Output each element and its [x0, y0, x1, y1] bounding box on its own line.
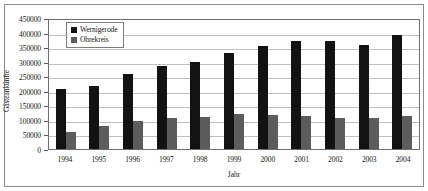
- bar-chart: Gästeankünfte 45000040000035000030000025…: [0, 0, 428, 191]
- bar: [258, 46, 268, 149]
- bar: [291, 41, 301, 149]
- y-axis-tick-label: 50000: [23, 131, 41, 140]
- y-axis-tick-label: 200000: [19, 87, 41, 96]
- x-axis-tick-label: 1996: [116, 155, 150, 164]
- bar-group: [352, 20, 386, 149]
- x-axis-tick-label: 1998: [183, 155, 217, 164]
- bar: [190, 62, 200, 149]
- bar: [89, 86, 99, 149]
- bar: [301, 116, 311, 149]
- y-axis-tick-label: 150000: [19, 102, 41, 111]
- bar-group: [318, 20, 352, 149]
- bar: [66, 132, 76, 149]
- bar-group: [217, 20, 251, 149]
- x-axis-tick-label: 1997: [149, 155, 183, 164]
- bar-group: [184, 20, 218, 149]
- x-axis-tick-label: 2002: [319, 155, 353, 164]
- bar: [167, 118, 177, 149]
- bar: [99, 126, 109, 149]
- bar: [133, 121, 143, 149]
- bar: [123, 74, 133, 149]
- x-axis-tick-label: 1994: [48, 155, 82, 164]
- x-axis-title: Jahr: [48, 170, 420, 179]
- bar: [268, 115, 278, 149]
- bar: [402, 116, 412, 149]
- bar-group: [150, 20, 184, 149]
- y-axis-tick-label: 300000: [19, 58, 41, 67]
- bar-group: [385, 20, 419, 149]
- y-axis-tick-label: 400000: [19, 29, 41, 38]
- legend-swatch-icon: [71, 27, 77, 33]
- bar: [224, 53, 234, 149]
- bar: [234, 114, 244, 150]
- bar: [359, 45, 369, 149]
- x-axis-tick-label: 1995: [82, 155, 116, 164]
- x-axis-ticks: 1994199519961997199819992000200120022003…: [48, 155, 420, 164]
- bar: [335, 118, 345, 149]
- x-axis-tick-label: 2001: [285, 155, 319, 164]
- legend-label: Ohrekreis: [80, 35, 109, 45]
- y-axis-tick-label: 0: [37, 146, 41, 155]
- bar-group: [251, 20, 285, 149]
- bar: [56, 89, 66, 149]
- bar: [325, 41, 335, 149]
- legend-item: Wernigerode: [71, 25, 117, 35]
- x-axis-tick-label: 1999: [217, 155, 251, 164]
- bar: [392, 35, 402, 149]
- y-axis-tick-mark: [44, 150, 48, 151]
- legend-item: Ohrekreis: [71, 35, 117, 45]
- y-axis-tick-label: 450000: [19, 15, 41, 24]
- x-axis-tick-label: 2004: [386, 155, 420, 164]
- bar-group: [284, 20, 318, 149]
- y-axis-tick-label: 350000: [19, 44, 41, 53]
- bar: [200, 117, 210, 149]
- chart-area: Gästeankünfte 45000040000035000030000025…: [0, 0, 428, 191]
- bar: [157, 66, 167, 149]
- legend-label: Wernigerode: [80, 25, 117, 35]
- y-axis-tick-label: 250000: [19, 73, 41, 82]
- x-axis-tick-label: 2000: [251, 155, 285, 164]
- bar: [369, 118, 379, 149]
- legend: WernigerodeOhrekreis: [66, 22, 124, 48]
- y-axis-tick-label: 100000: [19, 116, 41, 125]
- y-axis: 4500004000003500003000002500002000001500…: [0, 0, 48, 150]
- x-axis-tick-label: 2003: [352, 155, 386, 164]
- legend-swatch-icon: [71, 37, 77, 43]
